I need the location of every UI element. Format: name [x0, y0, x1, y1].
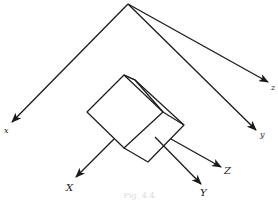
world-y-axis [128, 4, 256, 130]
body-x-axis [76, 139, 114, 177]
world-z-label: z [270, 83, 276, 92]
world-z-axis [128, 4, 268, 82]
body-z-axis [171, 139, 221, 167]
world-x-axis [12, 4, 128, 122]
body-axes [76, 137, 221, 184]
body-z-label: Z [223, 165, 232, 176]
world-y-label: y [259, 130, 265, 139]
body-y-axis [155, 137, 201, 184]
world-x-label: x [4, 126, 9, 135]
coordinate-frames-diagram: x y z X Y Z [0, 0, 278, 203]
cube-side-face [124, 75, 184, 162]
figure-caption: Fig. 4.4 [0, 191, 278, 200]
cube-right-edge [163, 112, 184, 125]
cube-front-face [87, 75, 163, 148]
world-axes [12, 4, 268, 130]
cube [87, 75, 184, 162]
